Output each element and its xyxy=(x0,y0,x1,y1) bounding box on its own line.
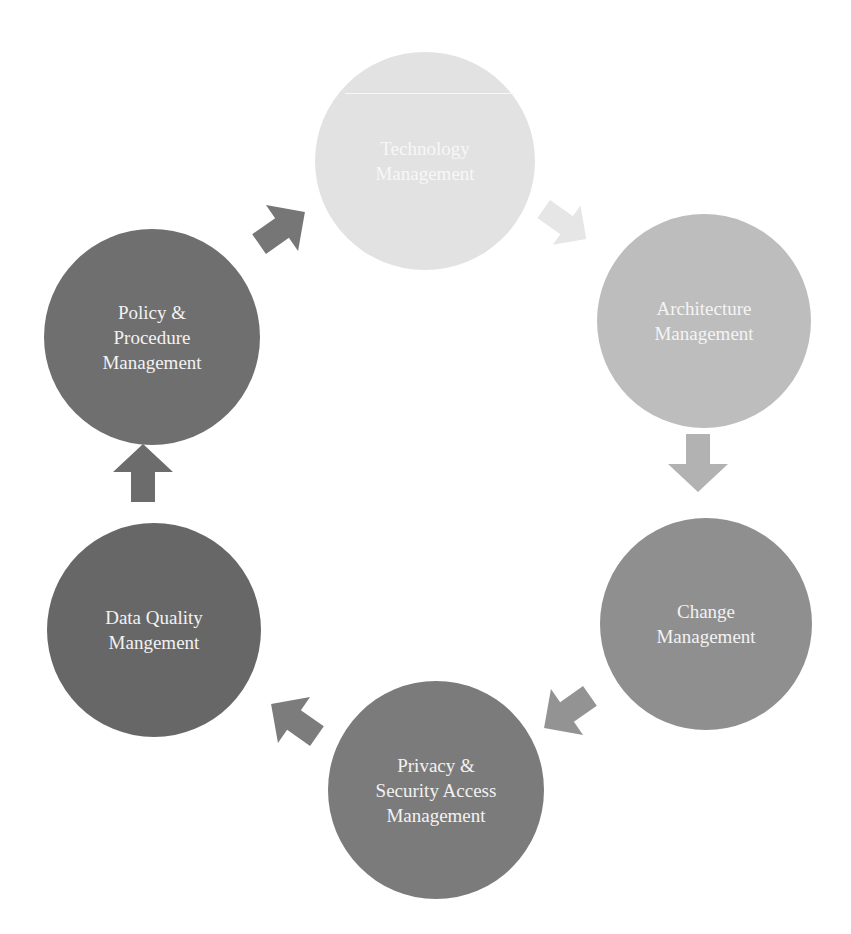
divider-line xyxy=(345,93,515,94)
node-label: Privacy & Security Access Management xyxy=(356,753,517,828)
node-label: Policy & Procedure Management xyxy=(82,300,221,375)
arrow-architecture-to-change-icon xyxy=(666,432,730,496)
arrow-privacy-to-data-quality-icon xyxy=(262,688,326,752)
node-technology-management: Technology Management xyxy=(315,52,535,270)
arrow-technology-to-architecture-icon xyxy=(533,192,597,256)
arrow-data-quality-to-policy-icon xyxy=(111,440,175,504)
node-label: Data Quality Mangement xyxy=(85,605,223,655)
node-change-management: Change Management xyxy=(600,518,812,730)
node-policy-procedure-management: Policy & Procedure Management xyxy=(44,229,260,445)
node-label: Architecture Management xyxy=(634,296,773,346)
node-data-quality-management: Data Quality Mangement xyxy=(47,523,261,737)
node-architecture-management: Architecture Management xyxy=(597,214,811,428)
node-privacy-security-access-management: Privacy & Security Access Management xyxy=(328,681,544,899)
node-label: Change Management xyxy=(636,599,775,649)
arrow-change-to-privacy-icon xyxy=(535,680,599,744)
node-label: Technology Management xyxy=(355,136,494,186)
arrow-policy-to-technology-icon xyxy=(250,196,314,260)
